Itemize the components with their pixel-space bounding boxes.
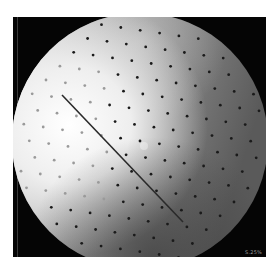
grid-dot (150, 62, 153, 65)
grid-dot (111, 57, 114, 60)
grid-dot (191, 131, 194, 134)
grid-dot (205, 118, 208, 121)
grid-dot (92, 54, 95, 57)
grid-dot (153, 126, 156, 129)
grid-dot (100, 245, 103, 248)
grid-dot (127, 217, 130, 220)
grid-dot (158, 142, 161, 145)
grid-dot (164, 159, 167, 162)
grid-dot (178, 35, 181, 38)
grid-dot (136, 187, 139, 190)
grid-dot (252, 93, 255, 96)
grid-dot (81, 131, 84, 134)
grid-dot (119, 248, 122, 251)
grid-dot (94, 228, 97, 231)
grid-dot (78, 68, 81, 71)
grid-dot (227, 184, 230, 187)
grid-dot (180, 98, 183, 101)
grid-dot (31, 92, 34, 95)
grid-dot (222, 57, 225, 60)
grid-dot (199, 212, 202, 215)
grid-dot (39, 173, 42, 176)
grid-dot (249, 140, 252, 143)
grid-dot (94, 117, 97, 120)
grid-dot (42, 126, 45, 129)
grid-dot (47, 142, 50, 145)
grid-dot (20, 170, 23, 173)
grid-dot (166, 223, 169, 226)
grid-dot (119, 26, 122, 29)
fluoroscopy-frame: S.25% (13, 17, 266, 257)
grid-dot (191, 242, 194, 245)
grid-dot (69, 209, 72, 212)
grid-dot (136, 76, 139, 79)
grid-dot (219, 104, 222, 107)
grid-dot (86, 37, 89, 40)
grid-dot (186, 115, 189, 118)
grid-dot (89, 212, 92, 215)
fluoroscopy-field (13, 17, 266, 257)
grid-dot (169, 65, 172, 68)
grid-dot (172, 129, 175, 132)
grid-dot (233, 201, 236, 204)
grid-dot (97, 70, 100, 73)
grid-dot (67, 145, 70, 148)
grid-dot (183, 51, 186, 54)
grid-dot (89, 101, 92, 104)
grid-dot (150, 173, 153, 176)
grid-dot (205, 228, 208, 231)
grid-dot (161, 95, 164, 98)
grid-dot (197, 37, 200, 40)
grid-dot (103, 198, 106, 201)
grid-dot (213, 87, 216, 90)
grid-dot (64, 192, 67, 195)
grid-dot (108, 214, 111, 217)
grid-dot (219, 214, 222, 217)
grid-dot (258, 109, 261, 112)
grid-dot (61, 128, 64, 131)
grid-dot (100, 23, 103, 26)
grid-dot (230, 137, 233, 140)
grid-dot (222, 167, 225, 170)
grid-dot (158, 253, 161, 256)
grid-dot (166, 112, 169, 115)
grid-dot (141, 203, 144, 206)
grid-dot (155, 79, 158, 82)
grid-dot (72, 162, 75, 165)
grid-dot (147, 220, 150, 223)
grid-dot (138, 250, 141, 253)
grid-dot (144, 156, 147, 159)
grid-dot (125, 153, 128, 156)
grid-dot (139, 140, 142, 143)
grid-dot (244, 123, 247, 126)
grid-dot (164, 48, 167, 51)
grid-dot (75, 225, 78, 228)
grid-dot (197, 148, 200, 151)
grid-dot (152, 237, 155, 240)
grid-dot (235, 154, 238, 157)
grid-dot (133, 123, 136, 126)
grid-dot (130, 59, 133, 62)
grid-dot (86, 148, 89, 151)
grid-dot (183, 162, 186, 165)
grid-dot (208, 71, 211, 74)
grid-dot (208, 181, 211, 184)
grid-dot (114, 120, 117, 123)
grid-dot (44, 189, 47, 192)
grid-dot (189, 68, 192, 71)
grid-dot (188, 178, 191, 181)
grid-dot (177, 145, 180, 148)
grid-dot (80, 242, 83, 245)
grid-dot (64, 81, 67, 84)
grid-dot (114, 231, 117, 234)
grid-dot (117, 73, 120, 76)
grid-dot (83, 195, 86, 198)
grid-dot (186, 226, 189, 229)
grid-dot (194, 195, 197, 198)
grid-dot (133, 234, 136, 237)
grid-dot (59, 65, 62, 68)
grid-dot (147, 109, 150, 112)
grid-dot (116, 184, 119, 187)
grid-dot (255, 156, 258, 159)
grid-dot (200, 101, 203, 104)
